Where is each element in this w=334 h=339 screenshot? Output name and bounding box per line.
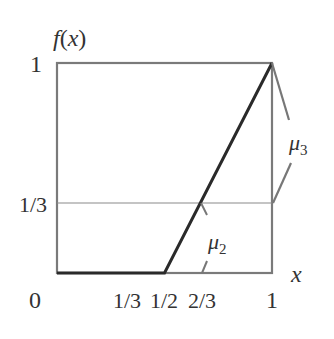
x-tick-label-one-half: 1/2 <box>150 288 178 313</box>
diagram-canvas: f(x) 1 1/3 x 0 1/3 1/2 2/3 1 μ2 μ3 <box>0 0 334 339</box>
y-tick-label-1: 1 <box>30 51 42 77</box>
y-tick-label-one-third: 1/3 <box>19 192 47 217</box>
mu2-bracket-upper <box>201 203 207 215</box>
y-axis-label: f(x) <box>53 25 86 51</box>
function-curve <box>57 63 272 273</box>
x-tick-label-two-thirds: 2/3 <box>188 288 216 313</box>
mu3-bracket-lower <box>273 163 291 203</box>
x-tick-label-0: 0 <box>29 287 41 313</box>
mu3-label: μ3 <box>288 130 308 158</box>
plot-frame <box>57 63 272 273</box>
mu2-label: μ2 <box>207 229 227 257</box>
mu3-bracket-upper <box>272 63 289 120</box>
x-axis-label: x <box>290 261 302 287</box>
x-tick-label-one-third: 1/3 <box>113 288 141 313</box>
x-tick-label-1: 1 <box>266 287 278 313</box>
mu2-bracket-lower <box>202 261 207 273</box>
